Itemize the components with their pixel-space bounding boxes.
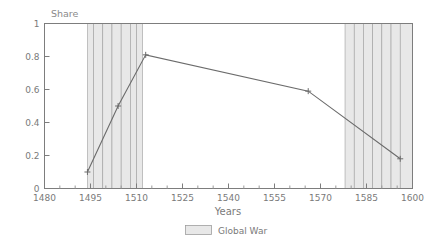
x-tick-label: 1540 (217, 193, 240, 203)
shaded-band (103, 24, 112, 189)
legend-swatch-global-war (186, 226, 212, 235)
y-tick-label: 0.4 (25, 118, 40, 128)
shaded-band (354, 24, 363, 189)
x-tick-label: 1525 (171, 193, 194, 203)
y-tick-label: 1 (34, 19, 40, 29)
shaded-band (345, 24, 354, 189)
chart-svg: 00.20.40.60.81 1480149515101525154015551… (0, 0, 428, 241)
shaded-band (137, 24, 143, 189)
y-axis-title: Share (51, 8, 79, 19)
x-tick-label: 1495 (79, 193, 102, 203)
legend-label-global-war: Global War (218, 226, 267, 236)
y-tick-label: 0.8 (25, 52, 40, 62)
x-tick-label: 1570 (309, 193, 332, 203)
shaded-band (391, 24, 400, 189)
shaded-band (400, 24, 412, 189)
shaded-band (363, 24, 372, 189)
x-tick-label: 1480 (33, 193, 56, 203)
shaded-band (87, 24, 93, 189)
x-axis-tick-labels: 148014951510152515401555157015851600 (33, 193, 424, 203)
shaded-band (373, 24, 382, 189)
x-tick-label: 1555 (263, 193, 286, 203)
shaded-band (94, 24, 103, 189)
x-tick-label: 1585 (355, 193, 378, 203)
x-tick-label: 1510 (125, 193, 148, 203)
shaded-band (130, 24, 136, 189)
legend: Global War (186, 226, 268, 236)
x-tick-label: 1600 (401, 193, 424, 203)
shaded-band (382, 24, 391, 189)
y-tick-label: 0.6 (25, 85, 40, 95)
chart-figure: 00.20.40.60.81 1480149515101525154015551… (0, 0, 428, 241)
shaded-band (121, 24, 130, 189)
x-axis-title: Years (214, 206, 241, 217)
y-tick-label: 0.2 (25, 151, 39, 161)
